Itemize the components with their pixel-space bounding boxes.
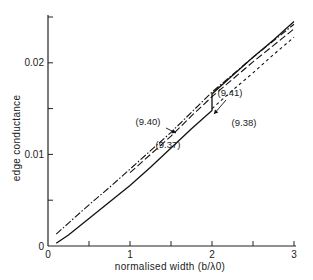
x-tick-label: 0 <box>45 249 51 260</box>
y-axis-label: edge conductance <box>11 95 22 182</box>
annotation-label: (9.41) <box>218 87 243 98</box>
chart: 012300.010.02 (9.41)(9.38)(9.40)(9.37) n… <box>0 0 313 280</box>
x-tick-label: 3 <box>291 249 297 260</box>
x-axis-label: normalised width (b/λ0) <box>115 261 225 272</box>
y-tick-label: 0 <box>38 241 44 252</box>
y-tick-label: 0.02 <box>25 57 45 68</box>
x-tick-label: 2 <box>209 249 215 260</box>
annotations: (9.41)(9.38)(9.40)(9.37) <box>136 87 257 150</box>
series-line-9.40 <box>56 24 294 234</box>
x-tick-label: 1 <box>127 249 133 260</box>
y-tick-label: 0.01 <box>25 149 45 160</box>
annotation-label: (9.40) <box>136 116 161 127</box>
annotation-label: (9.37) <box>156 139 181 150</box>
annotation-label: (9.38) <box>232 117 257 128</box>
axes: 012300.010.02 <box>25 15 298 260</box>
